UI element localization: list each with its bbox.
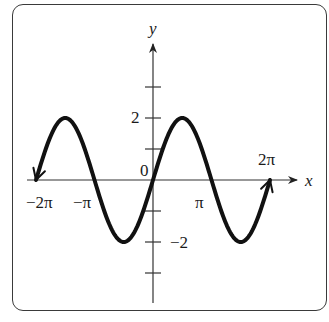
- tick-label-y-2: 2: [131, 108, 140, 127]
- tick-label-pi: π: [195, 193, 204, 212]
- tick-label-y-neg-2: −2: [170, 233, 188, 252]
- tick-label-neg-pi: −π: [73, 193, 92, 212]
- origin-label: 0: [140, 161, 149, 180]
- sine-graph: y x 0 −2π −π π 2π 2 −2: [0, 0, 329, 322]
- tick-label-neg-two-pi: −2π: [26, 193, 53, 212]
- y-axis-label: y: [147, 19, 157, 38]
- tick-label-two-pi: 2π: [258, 150, 276, 169]
- x-axis-label: x: [304, 171, 313, 190]
